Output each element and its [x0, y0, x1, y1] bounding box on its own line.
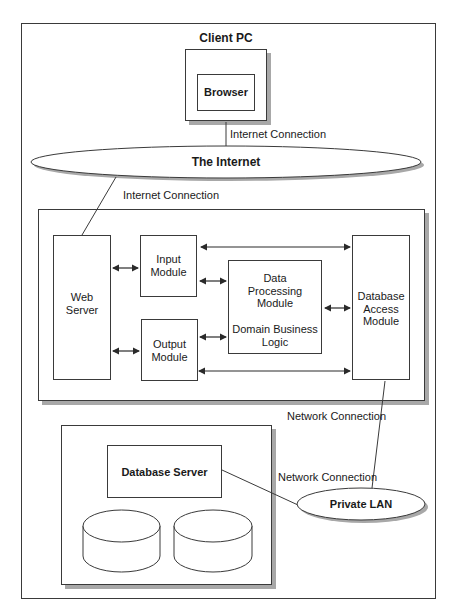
internet-label: The Internet	[192, 156, 261, 169]
server-internet-connection-label: Internet Connection	[123, 189, 219, 202]
disk-cylinder-1	[83, 510, 160, 572]
internet-webserver-line	[82, 177, 116, 235]
disk-cylinder-2	[174, 510, 252, 572]
private-lan-label: Private LAN	[330, 498, 392, 511]
server-lan-connection-label: Network Connection	[287, 410, 386, 423]
client-internet-connection-label: Internet Connection	[230, 128, 326, 141]
diagram-connectors	[0, 0, 458, 610]
db-lan-connection-label: Network Connection	[278, 471, 377, 484]
